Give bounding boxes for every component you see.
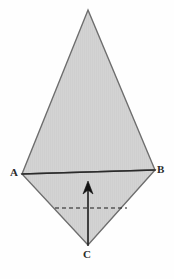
vertex-label-c: C <box>83 249 91 260</box>
upper-triangle <box>22 10 155 174</box>
vertex-c-marker <box>87 244 89 246</box>
geometry-figure: A B C <box>0 0 174 279</box>
figure-canvas <box>0 0 174 279</box>
vertex-label-b: B <box>157 164 164 175</box>
vertex-label-a: A <box>10 167 18 178</box>
